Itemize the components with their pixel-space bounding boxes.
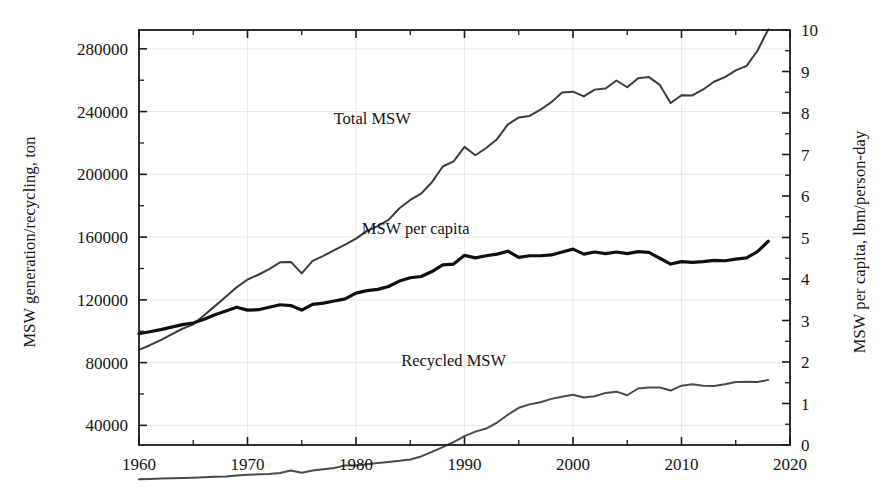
x-axis-tick-label: 2000 <box>556 455 590 474</box>
y-axis-right-tick-label: 9 <box>801 63 810 82</box>
x-axis-tick-label: 1960 <box>122 455 156 474</box>
y-axis-left-title: MSW generation/recycling, ton <box>20 72 40 412</box>
y-axis-right-tick-label: 0 <box>801 436 810 455</box>
series-line-total-msw <box>139 29 768 350</box>
y-axis-left-tick-label: 240000 <box>77 103 128 122</box>
msw-trend-chart: MSW generation/recycling, ton MSW per ca… <box>0 0 891 499</box>
series-annotation: Total MSW <box>334 109 412 128</box>
y-axis-right-tick-label: 7 <box>801 146 810 165</box>
x-axis-tick-label: 1990 <box>448 455 482 474</box>
x-axis-tick-label: 2020 <box>773 455 807 474</box>
x-axis-tick-label: 1980 <box>339 455 373 474</box>
y-axis-right-tick-label: 6 <box>801 187 810 206</box>
y-axis-left-tick-label: 120000 <box>77 291 128 310</box>
y-axis-right-tick-label: 2 <box>801 353 810 372</box>
y-axis-right-tick-label: 4 <box>801 270 810 289</box>
y-axis-right-tick-label: 1 <box>801 395 810 414</box>
y-axis-left-tick-label: 280000 <box>77 40 128 59</box>
y-axis-left-tick-label: 40000 <box>86 416 129 435</box>
y-axis-right-tick-label: 8 <box>801 104 810 123</box>
y-axis-right-tick-label: 10 <box>801 21 818 40</box>
y-axis-left-tick-label: 160000 <box>77 228 128 247</box>
series-annotation: MSW per capita <box>362 219 471 238</box>
x-axis-tick-label: 2010 <box>665 455 699 474</box>
y-axis-left-tick-label: 200000 <box>77 165 128 184</box>
series-group <box>139 29 768 479</box>
x-axis-tick-label: 1970 <box>231 455 265 474</box>
series-annotations: Total MSWMSW per capitaRecycled MSW <box>334 109 507 370</box>
series-line-msw-per-capita <box>139 241 768 334</box>
plot-canvas: 4000080000120000160000200000240000280000… <box>0 0 891 499</box>
y-axis-right-tick-label: 3 <box>801 312 810 331</box>
tick-labels: 4000080000120000160000200000240000280000… <box>77 21 818 474</box>
y-axis-right-title: MSW per capita, lbm/person-day <box>850 72 870 412</box>
y-axis-left-tick-label: 80000 <box>86 354 129 373</box>
y-axis-right-tick-label: 5 <box>801 229 810 248</box>
series-annotation: Recycled MSW <box>401 351 506 370</box>
